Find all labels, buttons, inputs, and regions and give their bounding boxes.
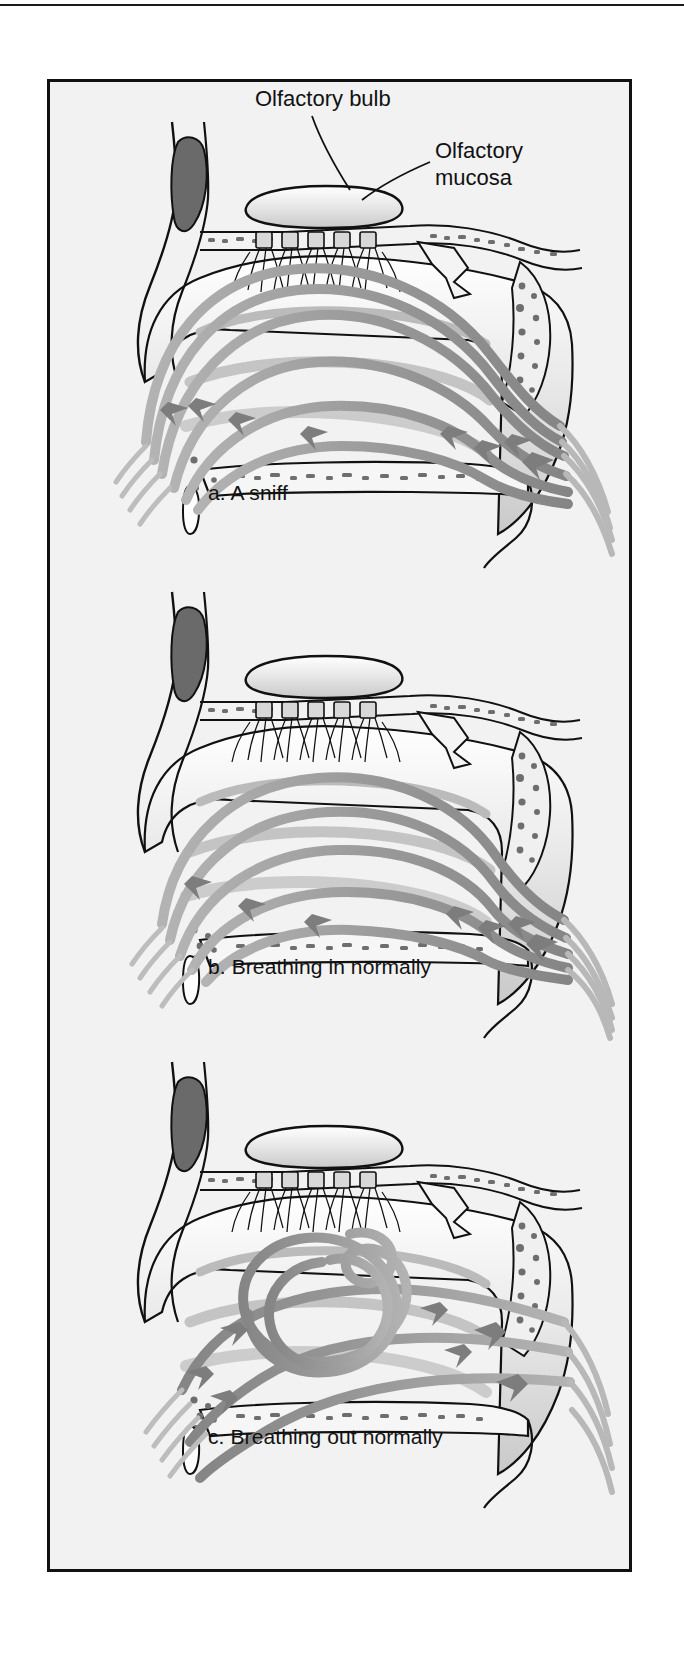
panel-a-illustration: [50, 82, 635, 582]
panel-b-breathing-in: b. Breathing in normally: [50, 552, 635, 1022]
figure-frame: a. A sniff Olfactory bulb Olfactory muco…: [47, 79, 632, 1572]
panel-a-caption: a. A sniff: [208, 481, 288, 505]
frontal-sinus-a: [171, 137, 206, 231]
frontal-sinus-c: [171, 1077, 206, 1171]
frontal-sinus-b: [171, 607, 206, 701]
pharynx-inflow-lines-c: [564, 1322, 612, 1492]
figure-page: a. A sniff Olfactory bulb Olfactory muco…: [0, 0, 684, 1653]
olfactory-mucosa-label: Olfactory mucosa: [435, 138, 523, 192]
panel-a-sniff: a. A sniff Olfactory bulb Olfactory muco…: [50, 82, 635, 582]
olfactory-bulb-label: Olfactory bulb: [255, 86, 391, 113]
olfactory-bulb-b: [246, 656, 403, 698]
page-top-rule: [0, 4, 684, 6]
olfactory-bulb-c: [246, 1126, 403, 1168]
panel-c-breathing-out: c. Breathing out normally: [50, 1022, 635, 1492]
panel-c-caption: c. Breathing out normally: [208, 1425, 443, 1449]
olfactory-bulb-a: [246, 186, 403, 228]
panel-b-caption: b. Breathing in normally: [208, 955, 431, 979]
